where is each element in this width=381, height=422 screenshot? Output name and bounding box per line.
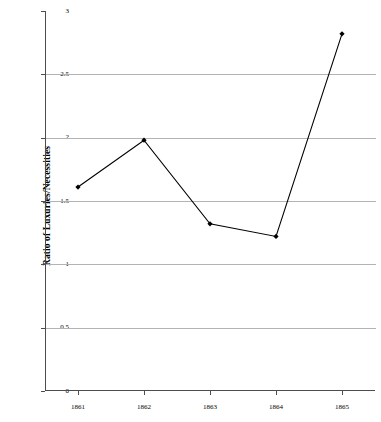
plot-area	[45, 11, 375, 391]
gridline	[46, 328, 376, 329]
x-axis-tick-label: 1863	[190, 404, 230, 411]
x-axis-tick-mark	[78, 391, 79, 395]
x-axis-tick-mark	[276, 391, 277, 395]
x-axis-tick-label: 1861	[58, 404, 98, 411]
line-chart: Ratio of Luxuries/Necessities 00.511.522…	[0, 0, 381, 422]
gridline	[46, 264, 376, 265]
x-axis-tick-mark	[144, 391, 145, 395]
gridline	[46, 74, 376, 75]
x-axis-tick-label: 1865	[322, 404, 362, 411]
x-axis-tick-mark	[342, 391, 343, 395]
x-axis-tick-mark	[210, 391, 211, 395]
gridline	[46, 201, 376, 202]
x-axis-tick-label: 1862	[124, 404, 164, 411]
y-axis-tick-mark	[41, 391, 45, 392]
x-axis-tick-label: 1864	[256, 404, 296, 411]
gridline	[46, 138, 376, 139]
